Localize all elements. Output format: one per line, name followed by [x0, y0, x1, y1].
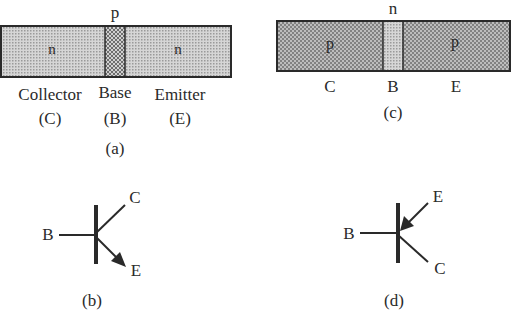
- emitter-abbr-label: E: [451, 78, 461, 95]
- emitter-lead: [96, 237, 117, 258]
- caption-d: (d): [384, 292, 404, 309]
- base-region: [105, 26, 125, 77]
- npn-collector-terminal-label: C: [129, 189, 140, 206]
- base-doping-label: n: [389, 0, 398, 17]
- base-doping-label: p: [111, 4, 120, 21]
- collector-name-label: Collector: [18, 86, 81, 103]
- pnp-emitter-terminal-label: E: [433, 188, 443, 205]
- collector-lead: [398, 235, 428, 262]
- base-region: [383, 21, 403, 71]
- caption-a: (a): [106, 140, 125, 157]
- collector-doping-label: p: [326, 36, 334, 52]
- emitter-abbr-label: (E): [169, 110, 191, 127]
- base-abbr-label: (B): [104, 110, 127, 127]
- collector-lead: [96, 205, 125, 233]
- emitter-doping-label: p: [451, 34, 459, 50]
- collector-abbr-label: C: [324, 78, 335, 95]
- pnp-collector-terminal-label: C: [434, 260, 445, 277]
- pnp-symbol: [360, 203, 428, 263]
- base-name-label: Base: [98, 84, 131, 101]
- base-abbr-label: B: [387, 78, 398, 95]
- pnp-structure-bar: [277, 21, 510, 71]
- emitter-lead: [408, 203, 428, 223]
- collector-doping-label: n: [48, 42, 56, 57]
- collector-abbr-label: (C): [39, 110, 62, 127]
- emitter-name-label: Emitter: [155, 86, 206, 103]
- npn-symbol: [59, 205, 126, 267]
- npn-base-terminal-label: B: [42, 226, 53, 243]
- npn-structure-bar: [1, 26, 231, 77]
- emitter-doping-label: n: [174, 42, 182, 57]
- pnp-base-terminal-label: B: [343, 225, 354, 242]
- npn-emitter-terminal-label: E: [131, 262, 141, 279]
- caption-b: (b): [82, 292, 102, 309]
- caption-c: (c): [384, 104, 403, 121]
